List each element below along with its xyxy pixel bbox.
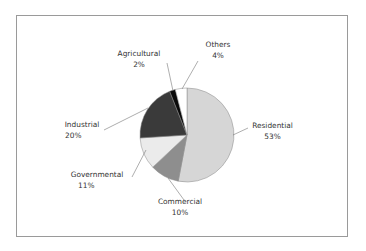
label-others-pct: 4% bbox=[200, 51, 236, 62]
label-industrial: Industrial 20% bbox=[57, 120, 107, 141]
leader-line-governmental bbox=[132, 150, 146, 177]
label-governmental-name: Governmental bbox=[60, 170, 134, 181]
leader-line-others bbox=[182, 61, 198, 89]
label-industrial-name: Industrial bbox=[57, 120, 107, 131]
label-others-name: Others bbox=[200, 40, 236, 51]
label-agricultural-pct: 2% bbox=[112, 60, 166, 71]
label-residential: Residential 53% bbox=[245, 121, 300, 142]
label-residential-name: Residential bbox=[245, 121, 300, 132]
label-commercial-pct: 10% bbox=[148, 208, 212, 219]
label-agricultural: Agricultural 2% bbox=[112, 49, 166, 70]
label-others: Others 4% bbox=[200, 40, 236, 61]
label-agricultural-name: Agricultural bbox=[112, 49, 166, 60]
label-industrial-pct: 20% bbox=[57, 131, 107, 142]
label-commercial-name: Commercial bbox=[148, 197, 212, 208]
leader-line-agricultural bbox=[167, 63, 173, 91]
label-commercial: Commercial 10% bbox=[148, 197, 212, 218]
label-residential-pct: 53% bbox=[245, 132, 300, 143]
pie-slices bbox=[140, 88, 234, 182]
label-governmental-pct: 11% bbox=[60, 181, 134, 192]
label-governmental: Governmental 11% bbox=[60, 170, 134, 191]
